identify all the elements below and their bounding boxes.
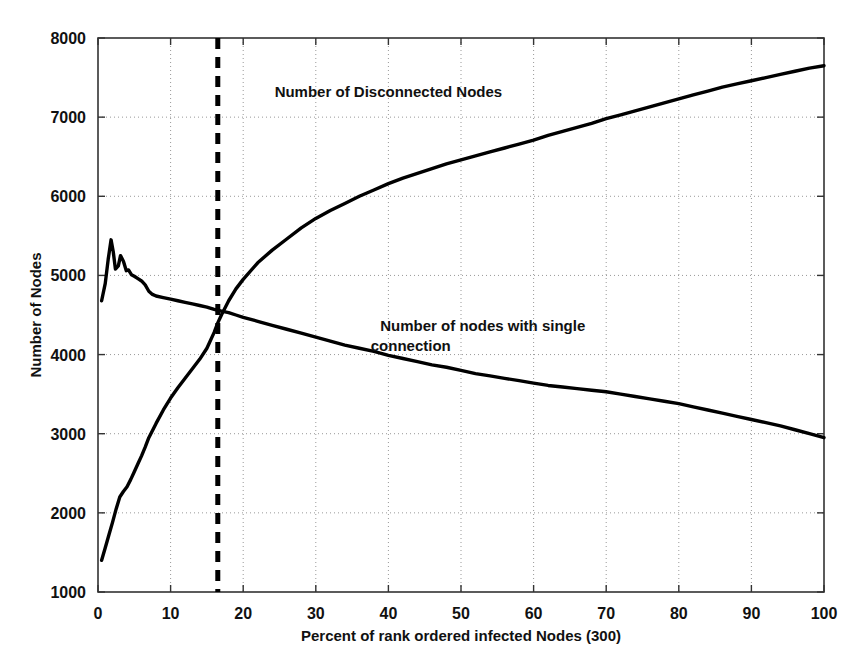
y-tick-label: 7000 xyxy=(50,109,86,126)
x-axis-title: Percent of rank ordered infected Nodes (… xyxy=(301,627,621,644)
y-axis-title: Number of Nodes xyxy=(27,252,44,377)
x-tick-label: 90 xyxy=(743,605,761,622)
x-tick-label: 80 xyxy=(670,605,688,622)
line-chart: 0102030405060708090100 10002000300040005… xyxy=(0,0,861,664)
x-tick-label: 70 xyxy=(597,605,615,622)
y-tick-label: 1000 xyxy=(50,584,86,601)
x-tick-label: 0 xyxy=(94,605,103,622)
y-tick-label: 3000 xyxy=(50,426,86,443)
x-tick-label: 40 xyxy=(380,605,398,622)
y-tick-label: 2000 xyxy=(50,505,86,522)
y-tick-label: 5000 xyxy=(50,267,86,284)
series-annotation: Number of Disconnected Nodes xyxy=(275,83,503,100)
x-tick-label: 20 xyxy=(234,605,252,622)
x-tick-label: 50 xyxy=(452,605,470,622)
y-tick-label: 8000 xyxy=(50,30,86,47)
x-tick-label: 100 xyxy=(811,605,838,622)
x-tick-label: 10 xyxy=(162,605,180,622)
x-tick-label: 30 xyxy=(307,605,325,622)
chart-figure: 0102030405060708090100 10002000300040005… xyxy=(0,0,861,664)
y-tick-label: 6000 xyxy=(50,188,86,205)
x-tick-label: 60 xyxy=(525,605,543,622)
y-tick-label: 4000 xyxy=(50,347,86,364)
